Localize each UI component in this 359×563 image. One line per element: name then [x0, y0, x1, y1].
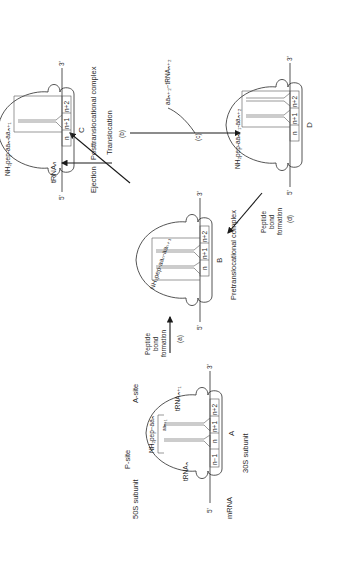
complex-letter-a: A — [227, 430, 236, 436]
incoming-aminoacyl-trna: aaₙ₊₂−tRNAₙ₊₂ — [164, 59, 171, 105]
complex-a: 5' 3' n−1 n n+1 n+2 NH₂pep−aaₙ aaₙ₊₁ tRN… — [123, 364, 250, 519]
svg-text:3': 3' — [286, 56, 293, 61]
complex-b: 5' 3' n n+1 n+2 NH₂pep-aaₙ-aaₙ₊₁ B Pretr… — [136, 191, 238, 330]
svg-text:n: n — [201, 266, 208, 270]
svg-text:3': 3' — [196, 191, 203, 196]
three-prime-label: 3' — [206, 364, 213, 369]
step-c: aaₙ₊₂−tRNAₙ₊₂ (c) — [130, 59, 240, 141]
complex-letter-d: D — [305, 122, 314, 128]
step-c-tag: (c) — [194, 133, 202, 141]
complex-letter-b: B — [215, 258, 224, 263]
step-a-tag: (a) — [176, 335, 184, 343]
svg-text:n+2: n+2 — [291, 96, 298, 107]
svg-text:n+2: n+2 — [63, 101, 70, 112]
complex-d: 5' 3' n n+1 n+2 NH₂pep-aaₙ₊₁-aaₙ₊₂ D — [226, 56, 314, 195]
step-b-tag: (b) — [118, 130, 126, 138]
svg-text:n: n — [63, 136, 70, 140]
translocation-label: Translocation — [105, 110, 114, 155]
step-a: Peptide bond formation (a) — [144, 317, 184, 357]
svg-text:n+2: n+2 — [201, 231, 208, 242]
svg-text:n: n — [291, 131, 298, 135]
trna-a-label: tRNAₙ₊₁ — [174, 385, 181, 411]
svg-text:formation: formation — [276, 208, 283, 235]
five-prime-label: 5' — [206, 508, 213, 513]
svg-text:n+1: n+1 — [291, 113, 298, 124]
svg-text:5': 5' — [58, 195, 65, 200]
svg-text:n+1: n+1 — [63, 118, 70, 129]
mrna-label: mRNA — [225, 497, 234, 519]
ejection-label: Ejection — [89, 166, 98, 193]
ejected-trna: tRNAₙ — [49, 162, 58, 183]
p-site-label: P-site — [123, 450, 132, 469]
posttranslocational-caption: Posttranslocational complex — [89, 66, 98, 160]
svg-text:Peptide: Peptide — [260, 211, 268, 233]
svg-text:5': 5' — [286, 190, 293, 195]
peptide-chain-c: NH₂pep-aaₙ-aaₙ₊₁ — [4, 121, 12, 176]
svg-text:n+1: n+1 — [201, 248, 208, 259]
complex-letter-c: C — [77, 127, 86, 133]
peptide-chain-a: NH₂pep−aaₙ — [148, 416, 156, 453]
large-subunit-label: 50S subunit — [131, 478, 140, 519]
aa-next-a: aaₙ₊₁ — [162, 419, 167, 431]
svg-text:bond: bond — [152, 336, 159, 351]
a-site-label: A-site — [131, 384, 140, 403]
svg-text:formation: formation — [160, 330, 167, 357]
svg-text:bond: bond — [268, 214, 275, 229]
step-d-tag: (d) — [286, 215, 294, 223]
trna-p-label: tRNAₙ — [182, 462, 189, 481]
small-subunit-label: 30S subunit — [241, 432, 250, 473]
svg-text:5': 5' — [196, 325, 203, 330]
codon-n-plus-2: n+2 — [211, 404, 218, 415]
svg-text:3': 3' — [58, 61, 65, 66]
codon-n-plus-1: n+1 — [211, 421, 218, 432]
elongation-diagram: 5' 3' n−1 n n+1 n+2 NH₂pep−aaₙ aaₙ₊₁ tRN… — [0, 0, 359, 563]
svg-text:Peptide: Peptide — [144, 333, 152, 355]
codon-n-minus-1: n−1 — [211, 454, 218, 465]
peptide-chain-d: NH₂pep-aaₙ₊₁-aaₙ₊₂ — [234, 108, 242, 169]
codon-n: n — [211, 439, 218, 443]
